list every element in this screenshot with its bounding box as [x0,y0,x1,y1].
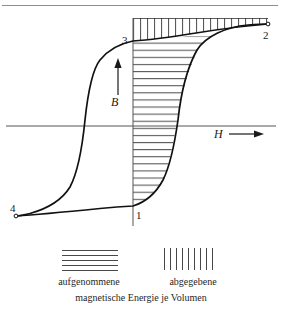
point-label-1: 1 [136,210,142,221]
point-label-4: 4 [10,203,16,214]
legend-caption-abgegebene: abgegebene [150,277,236,287]
legend-swatch-horizontal [62,251,118,271]
point-marker-4 [14,214,18,218]
legend-swatch-vertical [165,248,213,270]
point-label-2: 2 [263,30,269,41]
h-axis-arrow-icon [229,130,264,137]
hysteresis-plot [0,0,282,309]
b-axis-label: B [111,96,118,108]
legend-caption-energy: magnetische Energie je Volumen [26,293,256,303]
legend-caption-aufgenommene: aufgenommene [44,277,134,287]
b-axis-arrow-icon [114,58,121,95]
point-label-3: 3 [122,35,128,46]
h-axis-label: H [214,128,223,140]
hysteresis-figure: 1 2 3 4 B H aufgenommene abgegebene magn… [0,0,282,309]
point-marker-2 [266,22,270,26]
